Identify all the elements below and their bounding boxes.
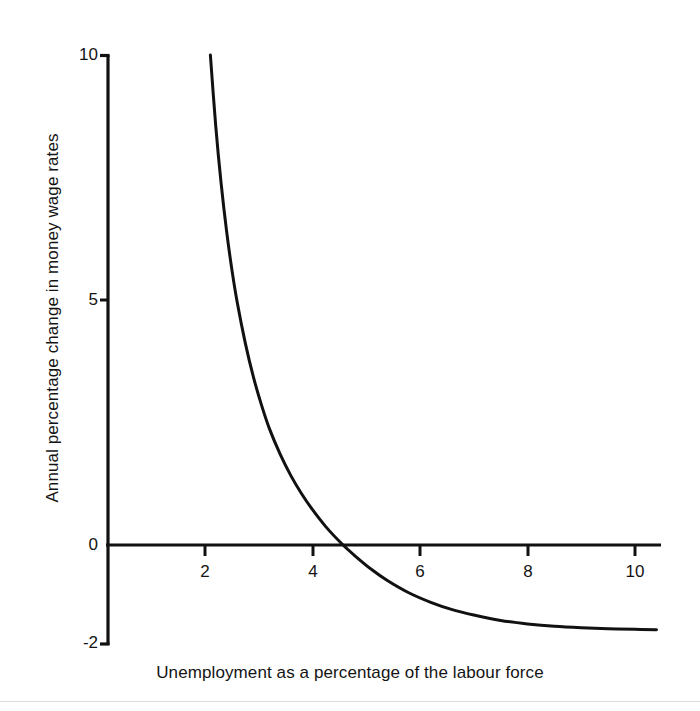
x-axis-title: Unemployment as a percentage of the labo…	[0, 663, 700, 683]
x-tick-label-2: 2	[185, 562, 225, 582]
y-tick-label-minus-2: -2	[52, 633, 98, 653]
y-axis-title: Annual percentage change in money wage r…	[40, 38, 66, 598]
x-tick-label-4: 4	[293, 562, 333, 582]
phillips-curve-figure: 10 5 0 -2 2 4 6 8 10 Unemployment as a p…	[0, 0, 700, 711]
scan-artifact-line	[0, 701, 700, 702]
y-axis-spine	[100, 55, 110, 645]
chart-canvas	[0, 0, 700, 711]
x-axis-ticks	[205, 545, 635, 556]
x-tick-label-8: 8	[508, 562, 548, 582]
x-tick-label-10: 10	[615, 562, 655, 582]
x-tick-label-6: 6	[400, 562, 440, 582]
